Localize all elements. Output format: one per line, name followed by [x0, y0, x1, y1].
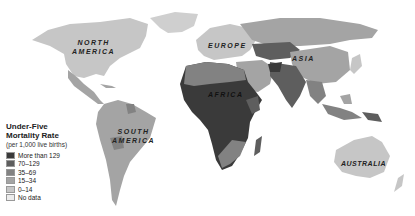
label-line: AMERICA	[112, 136, 155, 145]
label-north-america: NORTH AMERICA	[72, 38, 115, 56]
legend-swatch	[6, 177, 15, 184]
label-line: AMERICA	[72, 47, 115, 56]
label-line: EUROPE	[208, 41, 247, 50]
label-line: AUSTRALIA	[341, 159, 386, 168]
label-south-america: SOUTH AMERICA	[112, 127, 155, 145]
legend-swatch	[6, 160, 15, 167]
label-africa: AFRICA	[208, 90, 243, 99]
legend-title-line2: Mortality Rate	[6, 131, 101, 140]
label-australia: AUSTRALIA	[341, 159, 386, 168]
legend-item: 35–69	[6, 168, 101, 177]
legend-label: 15–34	[18, 177, 36, 184]
legend-label: 0–14	[18, 186, 32, 193]
legend-item: No data	[6, 194, 101, 203]
australia-shape	[334, 136, 390, 178]
legend-item: 0–14	[6, 185, 101, 194]
legend-swatch	[6, 194, 15, 201]
label-line: SOUTH	[112, 127, 155, 136]
legend-label: 70–129	[18, 160, 40, 167]
label-line: AFRICA	[208, 90, 243, 99]
legend-label: More than 129	[18, 152, 60, 159]
legend-swatch	[6, 186, 15, 193]
label-asia: ASIA	[292, 54, 315, 63]
greenland	[150, 12, 198, 33]
legend-item: 70–129	[6, 160, 101, 169]
label-europe: EUROPE	[208, 41, 247, 50]
legend-swatch	[6, 169, 15, 176]
label-line: ASIA	[292, 54, 315, 63]
legend-subtitle: (per 1,000 live births)	[6, 140, 101, 149]
legend-label: No data	[18, 194, 41, 201]
legend: Under-Five Mortality Rate (per 1,000 liv…	[6, 122, 101, 202]
legend-title-line1: Under-Five	[6, 122, 101, 131]
russia-shape	[240, 18, 378, 46]
legend-item: 15–34	[6, 177, 101, 186]
legend-label: 35–69	[18, 169, 36, 176]
legend-item: More than 129	[6, 151, 101, 160]
south-america-shape	[96, 100, 156, 206]
legend-swatch	[6, 152, 15, 159]
label-line: NORTH	[72, 38, 115, 47]
